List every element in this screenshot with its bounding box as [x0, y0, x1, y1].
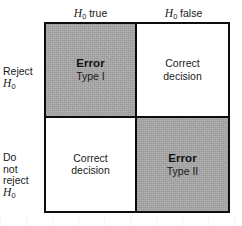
cell-correct-decision-top-line-1: Correct — [165, 57, 199, 70]
column-header-h0-true-variable: H0 — [74, 7, 86, 19]
scan-artifact — [0, 218, 242, 226]
decision-matrix-grid: Error Type I Correct decision Correct de… — [44, 22, 230, 213]
row-label-do-not-reject-h0: Do not reject H0 — [3, 152, 42, 199]
cell-type-ii-error-title: Error — [168, 152, 197, 165]
cell-correct-decision-top-line-2: decision — [163, 70, 202, 83]
cell-do-not-reject-h0-false-type-ii-error: Error Type II — [137, 118, 228, 212]
cell-type-i-error-title: Error — [76, 57, 105, 70]
column-header-h0-true: H0 true — [44, 6, 137, 21]
cell-type-i-error-subtitle: Type I — [76, 70, 105, 83]
row-label-reject-h0: Reject H0 — [3, 66, 42, 90]
row-label-do-not-reject-line-1: Do — [3, 152, 42, 164]
cell-reject-h0-true-type-i-error: Error Type I — [46, 24, 137, 118]
column-header-h0-false-variable: H0 — [165, 7, 177, 19]
cell-correct-decision-bottom-line-1: Correct — [73, 152, 107, 165]
row-label-do-not-reject-variable: H0 — [3, 187, 42, 200]
row-label-reject-variable: H0 — [3, 78, 42, 91]
cell-reject-h0-false-correct-decision: Correct decision — [137, 24, 228, 118]
error-type-matrix-figure: H0 true H0 false Reject H0 Do not reject… — [0, 0, 242, 226]
column-header-h0-false: H0 false — [137, 6, 230, 21]
cell-do-not-reject-h0-true-correct-decision: Correct decision — [46, 118, 137, 212]
column-header-h0-true-text: true — [86, 7, 107, 19]
cell-type-ii-error-subtitle: Type II — [167, 165, 199, 178]
cell-correct-decision-bottom-line-2: decision — [71, 164, 110, 177]
column-header-h0-false-text: false — [177, 7, 202, 19]
